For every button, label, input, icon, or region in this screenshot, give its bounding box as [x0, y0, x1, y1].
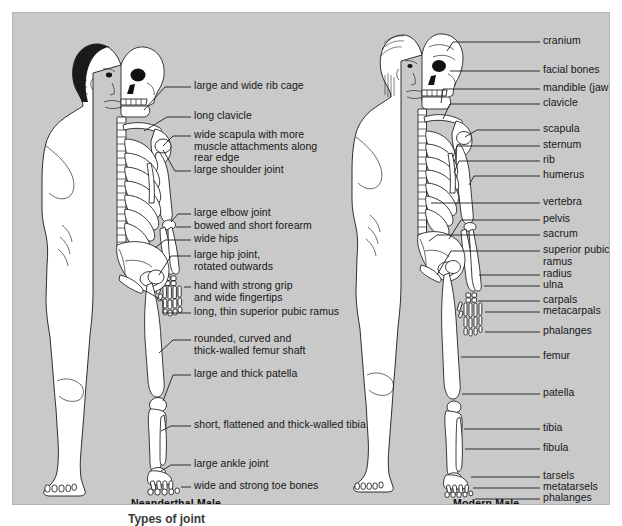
modern-label-humerus: humerus [543, 169, 584, 181]
neanderthal-label-tibia: short, flattened and thick-walled tibia [194, 419, 366, 431]
neanderthal-label-hand: hand with strong grip and wide fingertip… [194, 280, 293, 303]
modern-label-fibula: fibula [543, 442, 568, 454]
modern-label-patella: patella [543, 387, 574, 399]
modern-pelvis [418, 232, 465, 283]
modern-male-figure [13, 13, 610, 505]
neanderthal-label-elbow-joint: large elbow joint [194, 207, 271, 219]
modern-label-phalanges-foot: phalanges [543, 492, 592, 504]
modern-label-facial-bones: facial bones [543, 64, 600, 76]
neanderthal-label-femur-shaft: rounded, curved and thick-walled femur s… [194, 333, 306, 356]
modern-foot [443, 475, 472, 498]
neanderthal-label-ankle-joint: large ankle joint [194, 458, 268, 470]
modern-label-sacrum: sacrum [543, 228, 578, 240]
neanderthal-label-toe-bones: wide and strong toe bones [194, 480, 318, 492]
modern-label-superior-pubic-ramus: superior pubic ramus [543, 244, 610, 267]
modern-label-sternum: sternum [543, 139, 581, 151]
modern-label-tibia: tibia [543, 422, 563, 434]
neanderthal-label-hip-joint: large hip joint, rotated outwards [194, 249, 273, 272]
neanderthal-label-pubic-ramus: long, thin superior pubic ramus [194, 306, 339, 318]
modern-label-metacarpals: metacarpals [543, 305, 601, 317]
neanderthal-label-wide-hips: wide hips [194, 233, 238, 245]
modern-label-mandible: mandible (jaw) [543, 82, 610, 94]
diagram-panel: large and wide rib cagelong claviclewide… [12, 12, 610, 505]
neanderthal-label-forearm: bowed and short forearm [194, 220, 312, 232]
diagram-stage: large and wide rib cagelong claviclewide… [13, 13, 610, 505]
neanderthal-label-rib-cage: large and wide rib cage [194, 80, 304, 92]
modern-label-rib: rib [543, 154, 555, 166]
neanderthal-label-scapula: wide scapula with more muscle attachment… [194, 129, 317, 164]
modern-label-phalanges-hand: phalanges [543, 325, 592, 337]
page-section-title-cutoff: Types of joint [128, 512, 205, 526]
modern-label-femur: femur [543, 350, 570, 362]
modern-spine [418, 109, 427, 237]
modern-label-cranium: cranium [543, 35, 581, 47]
modern-label-pelvis: pelvis [543, 213, 570, 225]
modern-label-scapula: scapula [543, 123, 580, 135]
neanderthal-label-clavicle: long clavicle [194, 110, 252, 122]
neanderthal-label-shoulder-joint: large shoulder joint [194, 164, 284, 176]
modern-label-clavicle: clavicle [543, 97, 578, 109]
modern-male-caption: Modern Male [453, 497, 519, 505]
neanderthal-label-patella: large and thick patella [194, 368, 297, 380]
modern-label-ulna: ulna [543, 279, 563, 291]
modern-label-vertebra: vertebra [543, 196, 582, 208]
neanderthal-caption: Neanderthal Male [131, 497, 221, 505]
